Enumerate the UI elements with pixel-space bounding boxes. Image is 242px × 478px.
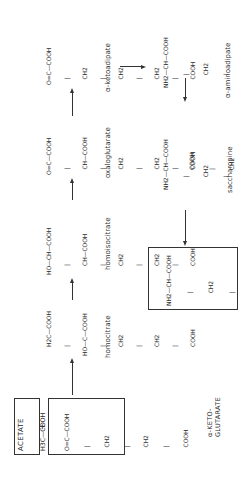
- homocitrate-formula: H2C—COOH | HO—C—COOH | CH2 | CH2 | COOH: [34, 311, 208, 356]
- alpha-ketoglutarate-box: O=C—COOH | CH2 | CH2 | COOH α-KETO- GLUT…: [48, 398, 125, 455]
- acetate-title: ACETATE: [17, 402, 25, 451]
- alpha-ketoadipate-label: α-ketoadipate: [104, 43, 112, 92]
- saccharopine-label: saccharopine: [226, 147, 234, 194]
- homoisocitrate-label: homoisocitrate: [104, 218, 112, 270]
- arrow-to-alpha-aminoadipate: [120, 64, 146, 69]
- acetate-box: ACETATE H3C—COOH: [14, 398, 40, 455]
- arrow-to-oxaloglutarate: [70, 178, 75, 200]
- lysine-box: NH2—CH—COOH | CH2 | CH2 | CH2 | CH2—NH2 …: [148, 247, 238, 310]
- arrow-to-alpha-ketoadipate: [70, 88, 75, 116]
- alpha-aminoadipate-label: α-aminoadipate: [224, 43, 232, 98]
- arrow-to-homoisocitrate: [70, 278, 75, 300]
- alpha-ketoglutarate-title: α-KETO- GLUTARATE: [206, 402, 222, 437]
- oxaloglutarate-label: oxaloglutarate: [104, 127, 112, 178]
- lysine-formula: NH2—CH—COOH | CH2 | CH2 | CH2 | CH2—NH2: [151, 251, 242, 306]
- arrow-to-saccharopine: [183, 78, 188, 102]
- arrow-to-homocitrate: [70, 358, 75, 395]
- arrow-to-lysine: [183, 210, 188, 246]
- homocitrate-label: homocitrate: [104, 315, 112, 358]
- lysine-pathway-diagram: ACETATE H3C—COOH + O=C—COOH | CH2 | CH2 …: [0, 0, 242, 478]
- plus-sign: +: [38, 423, 47, 430]
- alpha-ketoglutarate-formula: O=C—COOH | CH2 | CH2 | COOH: [51, 402, 203, 451]
